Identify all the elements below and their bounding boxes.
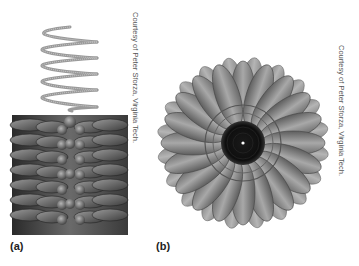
panel-label-a: (a) <box>10 240 23 252</box>
panel-label-b: (b) <box>156 240 170 252</box>
panel-a: Courtesy of Peter Sforza, Virginia Tech.… <box>0 0 150 266</box>
rna-helix-illustration <box>0 0 150 240</box>
panel-b: Courtesy of Peter Sforza, Virginia Tech.… <box>150 0 359 266</box>
credit-caption-a: Courtesy of Peter Sforza, Virginia Tech. <box>131 12 140 143</box>
center-dot <box>241 141 244 144</box>
end-view-illustration <box>150 0 330 240</box>
credit-caption-b: Courtesy of Peter Sforza, Virginia Tech. <box>337 45 346 176</box>
